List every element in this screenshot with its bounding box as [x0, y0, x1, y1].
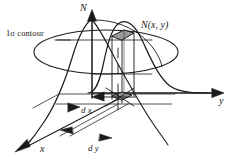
bell-curve-front-skirt — [92, 20, 168, 145]
height-guide-lines — [55, 40, 152, 74]
gaussian-figure: 1σ contour N(x, y) N y x d x d y — [0, 0, 233, 165]
arrow-right-icon — [99, 134, 112, 141]
x-axis-label: x — [40, 144, 44, 154]
column-top-face — [112, 30, 134, 40]
bell-curve-along-y — [88, 22, 210, 93]
dy-dimension — [60, 127, 112, 141]
dy-label: d y — [88, 144, 99, 153]
y-axis-label: y — [219, 96, 223, 106]
sigma-contour-label: 1σ contour — [6, 29, 44, 38]
n-axis-label: N — [80, 3, 87, 13]
n-of-xy-label: N(x, y) — [141, 20, 168, 30]
dx-label: d x — [81, 106, 92, 115]
figure-canvas — [0, 0, 233, 165]
n-axis — [88, 10, 97, 99]
arrow-down-left-icon — [15, 140, 30, 153]
